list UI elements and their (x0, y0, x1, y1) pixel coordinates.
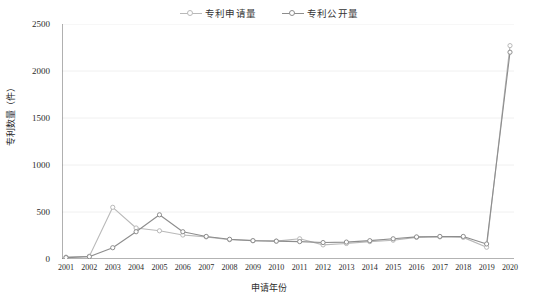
series-line-2 (66, 52, 510, 257)
data-point[interactable] (485, 242, 489, 246)
legend-item-series-2[interactable]: 专利公开量 (282, 6, 358, 20)
data-point[interactable] (321, 240, 325, 244)
x-tick-label: 2017 (432, 263, 448, 273)
data-point[interactable] (344, 240, 348, 244)
x-tick-label: 2004 (128, 263, 144, 273)
data-point[interactable] (438, 234, 442, 238)
data-point[interactable] (461, 234, 465, 238)
data-point[interactable] (157, 213, 161, 217)
legend-label-series-1: 专利申请量 (205, 6, 256, 20)
x-tick-label: 2005 (151, 263, 167, 273)
x-tick-label: 2003 (105, 263, 121, 273)
x-tick-label: 2016 (409, 263, 425, 273)
data-point[interactable] (134, 230, 138, 234)
data-point[interactable] (298, 240, 302, 244)
x-tick-label: 2015 (385, 263, 401, 273)
plot-area (62, 24, 514, 259)
y-tick-label: 0 (46, 255, 51, 264)
legend-item-series-1[interactable]: 专利申请量 (180, 6, 256, 20)
x-tick-label: 2010 (268, 263, 284, 273)
data-point[interactable] (368, 239, 372, 243)
data-point[interactable] (157, 229, 161, 233)
x-tick-label: 2020 (502, 263, 518, 273)
y-tick-label: 1500 (32, 114, 50, 123)
x-axis-title: 申请年份 (0, 281, 538, 294)
data-point[interactable] (64, 255, 68, 259)
y-tick-label: 2000 (32, 67, 50, 76)
y-tick-label: 2500 (32, 20, 50, 29)
chart-legend: 专利申请量 专利公开量 (0, 6, 538, 20)
x-tick-label: 2007 (198, 263, 214, 273)
x-tick-label: 2009 (245, 263, 261, 273)
data-point[interactable] (274, 239, 278, 243)
legend-label-series-2: 专利公开量 (307, 6, 358, 20)
data-point[interactable] (391, 237, 395, 241)
legend-marker-series-2 (282, 9, 304, 18)
x-tick-label: 2012 (315, 263, 331, 273)
x-tick-label: 2018 (455, 263, 471, 273)
data-point[interactable] (111, 246, 115, 250)
data-point[interactable] (87, 255, 91, 259)
x-axis-tick-labels: 2001200220032004200520062007200820092010… (62, 263, 514, 277)
data-point[interactable] (508, 44, 512, 48)
data-point[interactable] (204, 234, 208, 238)
series-line-1 (66, 46, 510, 258)
data-point[interactable] (111, 205, 115, 209)
x-tick-label: 2011 (292, 263, 308, 273)
x-tick-label: 2002 (81, 263, 97, 273)
y-tick-label: 500 (37, 208, 51, 217)
chart-root: 专利申请量 专利公开量 05001000150020002500 2001200… (0, 0, 538, 297)
x-tick-label: 2006 (175, 263, 191, 273)
x-tick-label: 2019 (479, 263, 495, 273)
data-point[interactable] (508, 50, 512, 54)
data-point[interactable] (251, 239, 255, 243)
y-tick-label: 1000 (32, 161, 50, 170)
data-point[interactable] (227, 237, 231, 241)
x-tick-label: 2008 (222, 263, 238, 273)
x-tick-label: 2001 (58, 263, 74, 273)
data-point[interactable] (414, 235, 418, 239)
y-axis-title: 专利数量（件） (4, 69, 17, 161)
x-tick-label: 2013 (338, 263, 354, 273)
chart-canvas (62, 24, 514, 259)
legend-marker-series-1 (180, 9, 202, 18)
x-tick-label: 2014 (362, 263, 378, 273)
data-point[interactable] (181, 230, 185, 234)
